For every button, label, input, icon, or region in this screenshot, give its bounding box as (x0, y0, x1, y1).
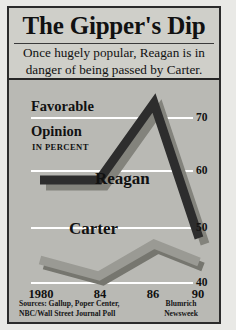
card-subtitle: Once hugely popular, Reagan is in danger… (15, 45, 213, 78)
credit-note: Blumrich Newsweek (153, 299, 209, 319)
card-header: The Gipper's Dip Once hugely popular, Re… (9, 8, 219, 80)
axis-title-line-2: Opinion (31, 123, 82, 140)
axis-units-label: IN PERCENT (32, 142, 89, 152)
series-label-reagan: Reagan (95, 169, 150, 189)
page-title: The Gipper's Dip (9, 10, 219, 42)
axis-title-line-1: Favorable (31, 98, 94, 115)
series-label-carter: Carter (69, 219, 118, 239)
chart-footer: Sources: Gallup, Poper Center, NBC/Wall … (9, 292, 219, 322)
screenshot-frame: The Gipper's Dip Once hugely popular, Re… (0, 0, 236, 330)
y-tick-50: 50 (196, 221, 208, 233)
chart-area: Favorable Opinion IN PERCENT Reagan Cart… (9, 80, 219, 322)
sources-note: Sources: Gallup, Poper Center, NBC/Wall … (19, 299, 147, 319)
y-tick-70: 70 (196, 111, 208, 123)
title-divider (14, 43, 214, 44)
y-tick-60: 60 (196, 164, 208, 176)
infographic-card: The Gipper's Dip Once hugely popular, Re… (7, 6, 221, 324)
